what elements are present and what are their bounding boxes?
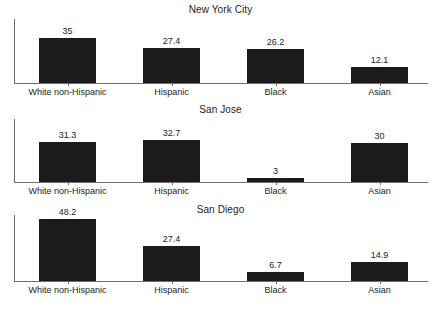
x-axis-category-label: White non-Hispanic: [15, 186, 120, 196]
bar: [143, 48, 200, 83]
bar: [143, 246, 200, 281]
plot-area: 35White non-Hispanic27.4Hispanic26.2Blac…: [14, 19, 428, 97]
bar-value-label: 32.7: [131, 128, 212, 138]
bar: [143, 140, 200, 182]
x-axis-tick: [276, 182, 277, 185]
x-axis-tick: [172, 182, 173, 185]
bar: [351, 143, 408, 182]
chart-panel-san-diego: San Diego 48.2White non-Hispanic27.4Hisp…: [0, 200, 441, 303]
chart-title: New York City: [0, 4, 441, 15]
bar-value-label: 26.2: [235, 37, 316, 47]
x-axis-tick: [380, 182, 381, 185]
x-axis-tick: [68, 182, 69, 185]
x-axis-category-label: Hispanic: [119, 87, 224, 97]
bar: [39, 142, 96, 182]
x-axis-tick: [380, 281, 381, 284]
x-axis-category-label: Asian: [327, 186, 432, 196]
bar: [247, 49, 304, 83]
plot-area: 31.3White non-Hispanic32.7Hispanic3Black…: [14, 119, 428, 196]
x-axis-category-label: White non-Hispanic: [15, 285, 120, 295]
chart-panel-san-jose: San Jose 31.3White non-Hispanic32.7Hispa…: [0, 100, 441, 203]
x-axis-tick: [172, 83, 173, 86]
bar-value-label: 14.9: [339, 250, 420, 260]
x-axis-line: [14, 182, 428, 183]
bar-value-label: 27.4: [131, 36, 212, 46]
bar-value-label: 6.7: [235, 260, 316, 270]
x-axis-line: [14, 83, 428, 84]
x-axis-category-label: Black: [223, 285, 328, 295]
bar: [247, 272, 304, 281]
x-axis-tick: [380, 83, 381, 86]
bar-value-label: 12.1: [339, 55, 420, 65]
bar-value-label: 31.3: [27, 130, 108, 140]
bar: [351, 67, 408, 83]
x-axis-tick: [68, 83, 69, 86]
bar: [39, 219, 96, 281]
bar-value-label: 48.2: [27, 207, 108, 217]
bar-value-label: 27.4: [131, 234, 212, 244]
x-axis-category-label: Asian: [327, 87, 432, 97]
x-axis-category-label: Hispanic: [119, 285, 224, 295]
y-axis-line: [14, 19, 15, 83]
x-axis-category-label: White non-Hispanic: [15, 87, 120, 97]
x-axis-line: [14, 281, 428, 282]
x-axis-tick: [68, 281, 69, 284]
x-axis-category-label: Black: [223, 87, 328, 97]
x-axis-tick: [276, 281, 277, 284]
bar-value-label: 30: [339, 131, 420, 141]
x-axis-tick: [172, 281, 173, 284]
bar-value-label: 35: [27, 26, 108, 36]
bar: [39, 38, 96, 83]
chart-panel-new-york-city: New York City 35White non-Hispanic27.4Hi…: [0, 0, 441, 103]
x-axis-category-label: Hispanic: [119, 186, 224, 196]
y-axis-line: [14, 119, 15, 182]
x-axis-category-label: Asian: [327, 285, 432, 295]
x-axis-category-label: Black: [223, 186, 328, 196]
plot-area: 48.2White non-Hispanic27.4Hispanic6.7Bla…: [14, 215, 428, 295]
y-axis-line: [14, 215, 15, 281]
bar-chart-figure: { "figure": { "background": "#ffffff", "…: [0, 0, 441, 309]
chart-title: San Jose: [0, 104, 441, 115]
bar: [351, 262, 408, 281]
bar-value-label: 3: [235, 166, 316, 176]
x-axis-tick: [276, 83, 277, 86]
